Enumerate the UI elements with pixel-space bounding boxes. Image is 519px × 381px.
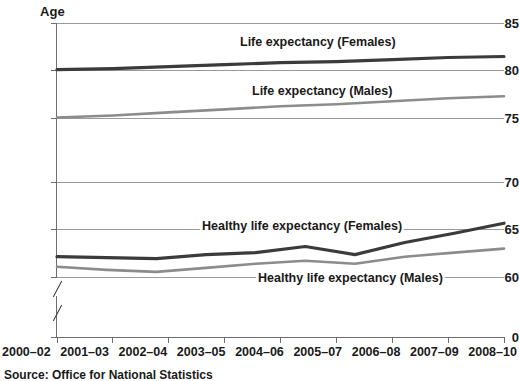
y-tick-label-80: 80 xyxy=(485,64,519,77)
x-tickmark-2 xyxy=(168,337,169,343)
y-tickmark-75 xyxy=(51,118,57,119)
gridline-75 xyxy=(57,118,504,119)
x-tickmark-3 xyxy=(224,337,225,343)
y-axis-title: Age xyxy=(40,4,65,19)
x-tick-label-6: 2006–08 xyxy=(352,346,401,364)
x-tick-label-0: 2000–02 xyxy=(2,346,51,364)
y-tickmark-70 xyxy=(51,182,57,183)
axis-break-lower-icon xyxy=(50,306,66,322)
x-axis-labels: 2000–02 2001–03 2002–04 2003–05 2004–06 … xyxy=(0,346,519,364)
x-tick-label-7: 2007–09 xyxy=(410,346,459,364)
y-tickmark-80 xyxy=(51,70,57,71)
series-label-healthy-life-expectancy-females: Healthy life expectancy (Females) xyxy=(200,219,404,233)
x-tick-label-4: 2004–06 xyxy=(235,346,284,364)
gridline-85 xyxy=(57,23,504,24)
y-tick-label-70: 70 xyxy=(485,176,519,189)
x-tick-label-8: 2008–10 xyxy=(468,346,517,364)
x-tickmark-6 xyxy=(392,337,393,343)
y-tickmark-65 xyxy=(51,229,57,230)
x-tickmark-1 xyxy=(112,337,113,343)
y-tick-label-65: 65 xyxy=(485,223,519,236)
x-tickmark-7 xyxy=(448,337,449,343)
axis-break-upper-icon xyxy=(50,282,66,298)
y-tick-label-75: 75 xyxy=(485,112,519,125)
series-label-life-expectancy-males: Life expectancy (Males) xyxy=(250,84,394,98)
x-tickmark-8 xyxy=(504,337,505,343)
x-tick-label-2: 2002–04 xyxy=(119,346,168,364)
x-tick-label-3: 2003–05 xyxy=(177,346,226,364)
series-label-healthy-life-expectancy-males: Healthy life expectancy (Males) xyxy=(256,271,445,285)
chart-figure: Age 85 80 75 70 65 60 0 Lif xyxy=(0,0,519,381)
x-tickmark-0 xyxy=(57,337,58,343)
x-tickmark-5 xyxy=(336,337,337,343)
gridline-80 xyxy=(57,70,504,71)
y-tickmark-85 xyxy=(51,23,57,24)
y-tick-label-60: 60 xyxy=(485,271,519,284)
source-note: Source: Office for National Statistics xyxy=(4,368,213,381)
plot-area xyxy=(57,23,504,277)
x-tickmark-4 xyxy=(280,337,281,343)
x-tick-label-5: 2005–07 xyxy=(293,346,342,364)
gridline-70 xyxy=(57,182,504,183)
y-tick-label-85: 85 xyxy=(485,17,519,30)
series-label-life-expectancy-females: Life expectancy (Females) xyxy=(238,35,398,49)
x-tick-label-1: 2001–03 xyxy=(60,346,109,364)
y-axis-line-upper xyxy=(56,23,57,277)
y-tickmark-60 xyxy=(51,277,57,278)
